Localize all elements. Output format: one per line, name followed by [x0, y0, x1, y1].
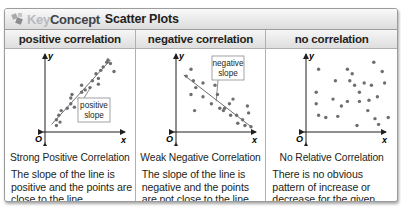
data-point — [356, 124, 359, 127]
data-point — [201, 81, 204, 84]
columns: positive correlation yxOpositiveslope St… — [5, 30, 397, 202]
origin-label: O — [35, 134, 42, 144]
svg-text:negative: negative — [212, 59, 243, 68]
column-subtitle: Strong Positive Correlation — [5, 152, 135, 163]
y-axis-label: y — [308, 51, 315, 61]
data-point — [315, 91, 318, 94]
column-description: The slope of the line is negative and th… — [142, 168, 264, 202]
column-subtitle: Weak Negative Correlation — [136, 152, 266, 163]
origin-label: O — [166, 134, 173, 144]
axes: yxO — [296, 51, 388, 145]
key-concept-icon — [11, 12, 25, 26]
data-point — [336, 115, 339, 118]
data-point — [381, 70, 384, 73]
data-point — [353, 84, 356, 87]
data-points — [315, 61, 390, 128]
data-point — [57, 114, 60, 117]
data-point — [317, 114, 320, 117]
x-axis-label: x — [120, 135, 127, 145]
data-point — [112, 70, 115, 73]
data-point — [102, 65, 105, 68]
data-point — [334, 79, 337, 82]
data-point — [245, 104, 248, 107]
data-point — [99, 69, 102, 72]
data-point — [249, 125, 252, 128]
data-point — [191, 79, 194, 82]
data-point — [231, 97, 234, 100]
data-point — [358, 91, 361, 94]
data-point — [247, 111, 250, 114]
data-point — [60, 109, 63, 112]
column-positive: positive correlation yxOpositiveslope St… — [5, 30, 136, 202]
data-point — [218, 107, 221, 110]
data-point — [97, 82, 100, 85]
data-point — [184, 74, 187, 77]
key-concept-card: KeyConcept Scatter Plots positive correl… — [4, 8, 398, 202]
data-point — [366, 109, 369, 112]
column-description: The slope of the line is positive and th… — [11, 168, 133, 202]
data-point — [223, 107, 226, 110]
data-point — [194, 86, 197, 89]
data-point — [377, 123, 380, 126]
data-point — [55, 118, 58, 121]
data-point — [358, 100, 361, 103]
data-point — [346, 100, 349, 103]
data-point — [346, 68, 349, 71]
column-heading: no correlation — [266, 30, 397, 49]
data-point — [227, 102, 230, 105]
data-point — [243, 124, 246, 127]
data-point — [236, 122, 239, 125]
scatter-plot-positive: yxOpositiveslope — [5, 50, 136, 146]
data-point — [348, 79, 351, 82]
slope-callout: negativeslope — [212, 56, 244, 101]
data-point — [370, 84, 373, 87]
data-point — [94, 72, 97, 75]
data-point — [241, 118, 244, 121]
y-axis-label: y — [178, 51, 185, 61]
data-point — [70, 93, 73, 96]
data-point — [189, 68, 192, 71]
scatter-plot-negative: yxOnegativeslope — [136, 50, 267, 146]
data-point — [332, 97, 335, 100]
data-point — [213, 84, 216, 87]
page-title: Scatter Plots — [105, 12, 179, 26]
column-none: no correlation yxO No Relative Correlati… — [266, 30, 397, 202]
data-point — [109, 62, 112, 65]
data-point — [315, 102, 318, 105]
data-point — [229, 114, 232, 117]
svg-text:positive: positive — [80, 101, 108, 110]
data-point — [69, 102, 72, 105]
data-point — [84, 88, 87, 91]
data-point — [215, 93, 218, 96]
column-negative: negative correlation yxOnegativeslope We… — [136, 30, 267, 202]
data-point — [368, 99, 371, 102]
data-point — [66, 107, 69, 110]
column-subtitle: No Relative Correlation — [266, 152, 397, 163]
column-heading: positive correlation — [5, 30, 135, 49]
data-point — [387, 116, 390, 119]
data-point — [55, 124, 58, 127]
origin-label: O — [296, 134, 303, 144]
data-point — [383, 81, 386, 84]
data-point — [189, 93, 192, 96]
data-point — [372, 61, 375, 64]
data-point — [69, 96, 72, 99]
key-label: Key — [27, 12, 50, 27]
scatter-plot-none: yxO — [266, 50, 397, 146]
svg-text:slope: slope — [218, 69, 238, 78]
data-point — [374, 117, 377, 120]
data-point — [209, 102, 212, 105]
x-axis-label: x — [381, 135, 388, 145]
title-bar: KeyConcept Scatter Plots — [5, 9, 397, 30]
concept-label: Concept — [50, 12, 100, 27]
data-point — [91, 79, 94, 82]
data-point — [106, 58, 109, 61]
data-point — [363, 81, 366, 84]
data-point — [201, 95, 204, 98]
data-point — [324, 116, 327, 119]
data-point — [317, 68, 320, 71]
data-point — [80, 84, 83, 87]
data-point — [351, 72, 354, 75]
column-description: There is no obvious pattern of increase … — [272, 168, 394, 202]
column-heading: negative correlation — [136, 30, 266, 49]
